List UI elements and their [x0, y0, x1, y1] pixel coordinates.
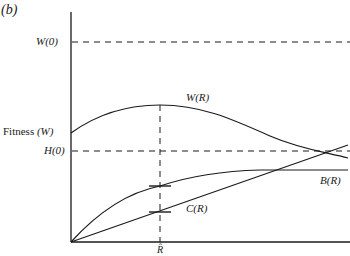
panel-label: (b)	[1, 2, 17, 18]
y-axis-label: Fitness (W)	[3, 125, 53, 137]
c-r-line	[71, 145, 348, 242]
h0-label: H(0)	[44, 144, 65, 156]
r-hat-label: R̂	[157, 244, 163, 255]
w0-label: W(0)	[36, 35, 58, 47]
b-r-curve	[71, 170, 348, 242]
c-r-label: C(R)	[186, 202, 207, 214]
b-r-label: B(R)	[320, 174, 341, 186]
y-axis-label-text: Fitness	[3, 125, 37, 137]
w-r-curve	[71, 105, 348, 158]
y-axis-label-symbol: (W)	[37, 125, 54, 137]
w-r-label: W(R)	[186, 91, 209, 103]
